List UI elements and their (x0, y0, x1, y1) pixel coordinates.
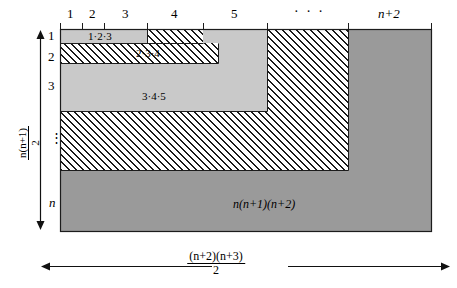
region-band3-light (61, 63, 267, 111)
top-axis-label-1: 1 (67, 7, 74, 20)
bottom-bracket-numerator: (n+2)(n+3) (187, 250, 245, 263)
left-axis-label-2: 2 (48, 50, 55, 63)
left-axis-label-1: 1 (48, 29, 55, 42)
left-axis-ellipsis: ⋮ (50, 136, 63, 140)
top-axis-label-last: n+2 (378, 7, 400, 20)
left-axis-label-3: 3 (48, 79, 55, 92)
top-axis-label-2: 2 (89, 7, 96, 20)
proof-without-words-diagram: 1 2 3 4 5 · · · n+2 1 2 3 ⋮ n n(n+1) 2 1… (0, 0, 457, 288)
left-axis-label-last: n (49, 196, 56, 209)
region-label-band2: 2·3·4 (136, 48, 160, 59)
top-axis-ellipsis: · · · (294, 5, 325, 19)
top-axis-label-5: 5 (231, 7, 238, 20)
bottom-axis-bracket-label: (n+2)(n+3) 2 (187, 250, 245, 278)
region-band1-hatch-tail (147, 30, 203, 43)
region-label-band1: 1·2·3 (88, 31, 112, 42)
region-label-total: n(n+1)(n+2) (233, 198, 295, 210)
region-label-band3: 3·4·5 (142, 91, 166, 102)
top-axis-label-4: 4 (171, 7, 178, 20)
bottom-bracket-denominator: 2 (187, 263, 245, 277)
left-bracket-numerator: n(n+1) (16, 126, 28, 160)
top-axis-label-3: 3 (122, 7, 129, 20)
left-axis-bracket-label: n(n+1) 2 (16, 126, 43, 160)
left-bracket-denominator: 2 (28, 126, 41, 160)
